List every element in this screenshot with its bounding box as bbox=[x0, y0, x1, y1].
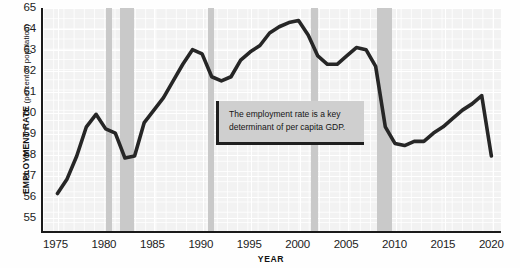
chart-figure: 6564636261605958575655 19751980198519901… bbox=[0, 0, 520, 268]
x-tick-label: 1985 bbox=[130, 238, 174, 250]
y-axis-title-unit: (percent of population) bbox=[22, 24, 31, 103]
x-tick-label: 2010 bbox=[372, 238, 416, 250]
callout-text: The employment rate is a key determinant… bbox=[229, 109, 345, 132]
x-tick-label: 2000 bbox=[276, 238, 320, 250]
y-axis-title: EMPLOYMENT RATE (percent of population) bbox=[21, 9, 31, 209]
x-tick-label: 1995 bbox=[227, 238, 271, 250]
x-tick-label: 1980 bbox=[82, 238, 126, 250]
x-tick-label: 2020 bbox=[469, 238, 513, 250]
y-axis-title-main: EMPLOYMENT RATE bbox=[21, 106, 31, 194]
y-tick-label: 55 bbox=[8, 211, 36, 223]
x-tick-label: 2015 bbox=[421, 238, 465, 250]
x-tick-label: 1990 bbox=[179, 238, 223, 250]
x-axis-title: YEAR bbox=[41, 254, 501, 264]
x-tick-label: 1975 bbox=[34, 238, 78, 250]
x-tick-label: 2005 bbox=[324, 238, 368, 250]
callout-box: The employment rate is a key determinant… bbox=[216, 101, 364, 145]
